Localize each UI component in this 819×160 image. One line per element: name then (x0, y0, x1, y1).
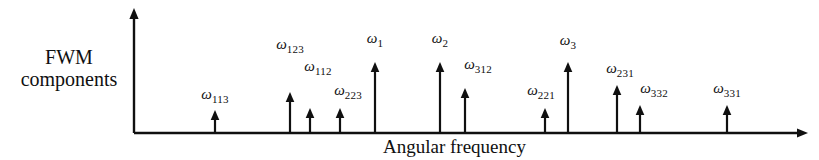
peak-arrowhead (306, 108, 315, 118)
peak-label-symbol: ω (560, 32, 571, 48)
peak-label-subscript: 1 (377, 37, 383, 49)
peak-label-subscript: 231 (617, 67, 634, 79)
x-axis-arrowhead (797, 128, 808, 137)
peak-label-subscript: 221 (538, 89, 555, 101)
peak-label-symbol: ω (640, 80, 651, 96)
peak-label-subscript: 223 (345, 89, 362, 101)
peak-label-subscript: 312 (475, 63, 492, 75)
peak-label-subscript: 123 (287, 43, 304, 55)
peak-label-symbol: ω (201, 86, 212, 102)
peak-label-symbol: ω (606, 60, 617, 76)
fwm-spectrum-figure: FWM components Angular frequency ω113ω12… (0, 0, 819, 160)
peak-label: ω312 (464, 56, 492, 75)
peak-arrowhead (211, 110, 220, 120)
x-axis-label: Angular frequency (383, 136, 526, 158)
peak-label-subscript: 2 (442, 37, 448, 49)
peak-label: ω223 (334, 82, 362, 101)
peak-arrowhead (723, 105, 732, 115)
peak-arrowhead (636, 105, 645, 115)
peak-arrowhead (371, 62, 380, 72)
peak-label: ω331 (713, 80, 741, 99)
peak-label: ω123 (276, 36, 304, 55)
peak-label-subscript: 3 (570, 39, 576, 51)
peak-label-subscript: 332 (651, 87, 668, 99)
peak-label-symbol: ω (304, 58, 315, 74)
peak-label: ω221 (527, 82, 555, 101)
peak-label-symbol: ω (334, 82, 345, 98)
peak-arrowhead (436, 62, 445, 72)
peak-label-subscript: 113 (212, 93, 229, 105)
peak-label: ω1 (367, 30, 383, 49)
peak-label-symbol: ω (527, 82, 538, 98)
peak-label-symbol: ω (367, 30, 378, 46)
peak-label: ω332 (640, 80, 668, 99)
peak-label: ω3 (560, 32, 576, 51)
peak-arrowhead (286, 92, 295, 102)
peak-arrowhead (461, 88, 470, 98)
peak-arrowhead (613, 85, 622, 95)
peak-label-subscript: 112 (315, 65, 332, 77)
peak-arrowhead (564, 62, 573, 72)
peak-label: ω112 (304, 58, 331, 77)
y-axis-arrowhead (129, 8, 138, 19)
peak-label-symbol: ω (713, 80, 724, 96)
peak-arrowhead (336, 108, 345, 118)
peak-label-subscript: 331 (724, 87, 741, 99)
peak-arrowhead (541, 108, 550, 118)
peak-label: ω113 (201, 86, 228, 105)
peak-label: ω231 (606, 60, 634, 79)
peak-label-symbol: ω (276, 36, 287, 52)
peak-label-symbol: ω (464, 56, 475, 72)
peak-label-symbol: ω (432, 30, 443, 46)
peak-label: ω2 (432, 30, 448, 49)
